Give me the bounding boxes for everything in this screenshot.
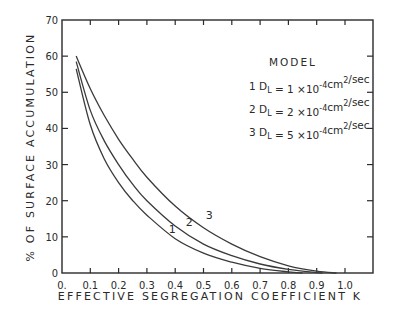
y-tick-label: 0 [52, 267, 58, 280]
plot-border [62, 20, 373, 273]
y-tick-label: 40 [45, 122, 58, 135]
curve-label-1: 1 [169, 223, 176, 236]
y-tick-label: 70 [45, 14, 58, 27]
x-axis-title: EFFECTIVE SEGREGATION COEFFICIENT K [58, 290, 362, 303]
legend: MODEL 1 DL = 1 ×10-4cm2/sec2 DL = 2 ×10-… [249, 56, 370, 141]
y-tick-label: 50 [45, 86, 58, 99]
curve-1 [76, 69, 302, 273]
surface-accumulation-chart: 0.0.10.20.30.40.50.60.70.80.91.0 0102030… [0, 0, 398, 321]
y-axis-ticks: 010203040506070 [45, 14, 373, 280]
legend-entry-2: 2 DL = 2 ×10-4cm2/sec [249, 96, 370, 118]
legend-entry-1: 1 DL = 1 ×10-4cm2/sec [249, 73, 370, 95]
y-tick-label: 10 [45, 231, 58, 244]
y-tick-label: 30 [45, 159, 58, 172]
y-tick-label: 20 [45, 195, 58, 208]
legend-entry-3: 3 DL = 5 ×10-4cm2/sec [249, 119, 370, 141]
curve-label-2: 2 [186, 216, 193, 229]
curve-label-3: 3 [206, 209, 213, 222]
y-axis-title: % OF SURFACE ACCUMULATION [24, 32, 37, 261]
y-tick-label: 60 [45, 50, 58, 63]
plot-frame [62, 20, 373, 273]
curve-labels: 123 [169, 209, 213, 236]
legend-title: MODEL [269, 56, 317, 68]
